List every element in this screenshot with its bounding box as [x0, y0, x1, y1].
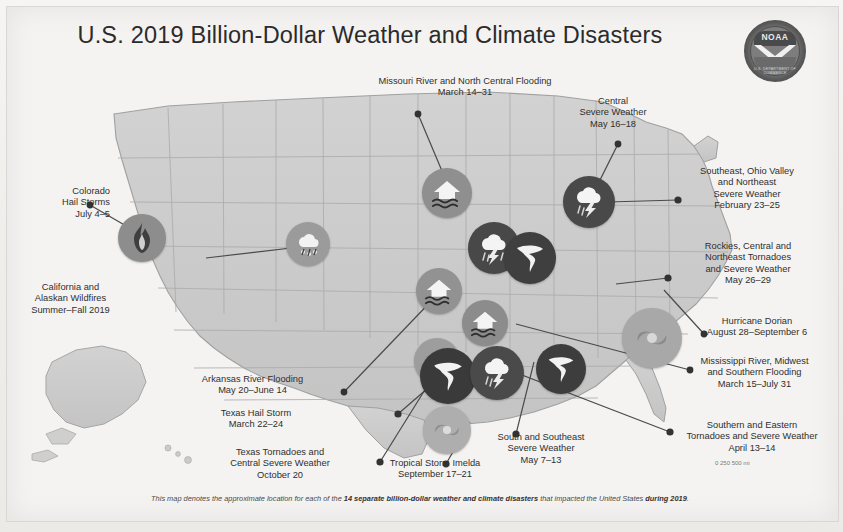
- label-line: Central Severe Weather: [196, 458, 364, 469]
- label-line: Arkansas River Flooding: [170, 374, 335, 385]
- event-marker-wildfire[interactable]: [118, 214, 166, 262]
- event-marker-colorado-hail[interactable]: [286, 222, 330, 266]
- label-line: Hail Storms: [10, 197, 110, 208]
- event-marker-missouri-flooding[interactable]: [422, 168, 472, 218]
- label-line: Southeast, Ohio Valley: [672, 166, 822, 177]
- logo-wordmark: NOAA: [744, 32, 806, 42]
- screenshot-root: U.S. 2019 Billion-Dollar Weather and Cli…: [0, 0, 843, 532]
- label-line: May 20–June 14: [170, 385, 335, 396]
- label-line: Southern and Eastern: [664, 420, 840, 431]
- footnote-part1: This map denotes the approximate locatio…: [151, 494, 344, 503]
- tornado-icon: [513, 241, 547, 275]
- footnote-bold1: 14 separate billion-dollar weather and c…: [344, 494, 538, 503]
- event-marker-arkansas-flooding[interactable]: [416, 268, 462, 314]
- label-line: Mississippi River, Midwest: [672, 356, 837, 367]
- tornado-icon: [545, 353, 577, 385]
- label-line: Rockies, Central and: [668, 241, 828, 252]
- label-line: Central: [558, 96, 668, 107]
- map-footnote: This map denotes the approximate locatio…: [40, 494, 800, 504]
- severe-storm-icon: [480, 356, 514, 390]
- event-marker-southern-eastern-tornado[interactable]: [536, 344, 586, 394]
- label-line: Missouri River and North Central Floodin…: [350, 76, 580, 87]
- label-line: and Severe Weather: [668, 264, 828, 275]
- label-line: Severe Weather: [468, 443, 614, 454]
- flood-icon: [431, 177, 463, 209]
- label-line: August 28–September 6: [678, 327, 836, 338]
- label-line: July 4–5: [10, 209, 110, 220]
- hurricane-icon: [630, 316, 674, 360]
- label-rockies-central-northeast-tornadoes: Rockies, Central and Northeast Tornadoes…: [668, 241, 828, 287]
- label-central-severe-weather: Central Severe Weather May 16–18: [558, 96, 668, 130]
- label-line: Hurricane Dorian: [678, 316, 836, 327]
- label-line: February 23–25: [672, 200, 822, 211]
- label-mississippi-river-flooding: Mississippi River, Midwest and Southern …: [672, 356, 837, 390]
- label-line: Summer–Fall 2019: [8, 305, 133, 316]
- label-line: Severe Weather: [672, 189, 822, 200]
- event-marker-southeast-ohio-ne[interactable]: [563, 176, 615, 228]
- event-marker-texas-tornado[interactable]: [420, 348, 476, 404]
- scale-bar: 0 250 500 mi: [715, 460, 750, 466]
- label-texas-tornadoes: Texas Tornadoes and Central Severe Weath…: [196, 447, 364, 481]
- tornado-icon: [430, 358, 466, 394]
- event-marker-mississippi-flooding[interactable]: [462, 300, 508, 346]
- event-marker-rockies-central-ne-tornado[interactable]: [504, 232, 556, 284]
- label-line: March 15–July 31: [672, 379, 837, 390]
- label-line: and Southern Flooding: [672, 367, 837, 378]
- label-line: October 20: [196, 470, 364, 481]
- tropical-storm-icon: [429, 412, 465, 448]
- label-line: Texas Hail Storm: [186, 408, 326, 419]
- label-line: Severe Weather: [558, 107, 668, 118]
- severe-storm-icon: [572, 185, 606, 219]
- label-line: Colorado: [10, 186, 110, 197]
- label-line: Texas Tornadoes and: [196, 447, 364, 458]
- label-missouri-river-flooding: Missouri River and North Central Floodin…: [350, 76, 580, 99]
- label-line: May 16–18: [558, 119, 668, 130]
- label-texas-hail-storm: Texas Hail Storm March 22–24: [186, 408, 326, 431]
- page-title: U.S. 2019 Billion-Dollar Weather and Cli…: [70, 22, 670, 49]
- label-line: May 26–29: [668, 275, 828, 286]
- label-line: South and Southeast: [468, 432, 614, 443]
- label-line: Tornadoes and Severe Weather: [664, 431, 840, 442]
- label-line: and Northeast: [672, 177, 822, 188]
- label-line: May 7–13: [468, 455, 614, 466]
- label-line: California and: [8, 282, 133, 293]
- label-california-alaska-wildfires: California and Alaskan Wildfires Summer–…: [8, 282, 133, 316]
- event-marker-south-southeast-severe[interactable]: [470, 346, 524, 400]
- flood-icon: [470, 308, 500, 338]
- label-southern-eastern-tornadoes: Southern and Eastern Tornadoes and Sever…: [664, 420, 840, 454]
- label-arkansas-river-flooding: Arkansas River Flooding May 20–June 14: [170, 374, 335, 397]
- wildfire-icon: [127, 222, 157, 254]
- label-line: April 13–14: [664, 443, 840, 454]
- label-colorado-hail: Colorado Hail Storms July 4–5: [10, 186, 110, 220]
- label-line: Alaskan Wildfires: [8, 293, 133, 304]
- label-line: Northeast Tornadoes: [668, 252, 828, 263]
- footnote-part3: .: [687, 494, 689, 503]
- flood-icon: [424, 276, 454, 306]
- label-line: September 17–21: [360, 469, 510, 480]
- label-south-southeast-severe: South and Southeast Severe Weather May 7…: [468, 432, 614, 466]
- footnote-part2: that impacted the United States: [538, 494, 645, 503]
- label-line: March 14–31: [350, 87, 580, 98]
- label-line: March 22–24: [186, 419, 326, 430]
- footnote-bold2: during 2019: [645, 494, 686, 503]
- hail-icon: [294, 230, 322, 258]
- label-hurricane-dorian: Hurricane Dorian August 28–September 6: [678, 316, 836, 339]
- event-marker-tropical-storm-imelda[interactable]: [423, 406, 471, 454]
- label-southeast-ohio-valley-northeast: Southeast, Ohio Valley and Northeast Sev…: [672, 166, 822, 212]
